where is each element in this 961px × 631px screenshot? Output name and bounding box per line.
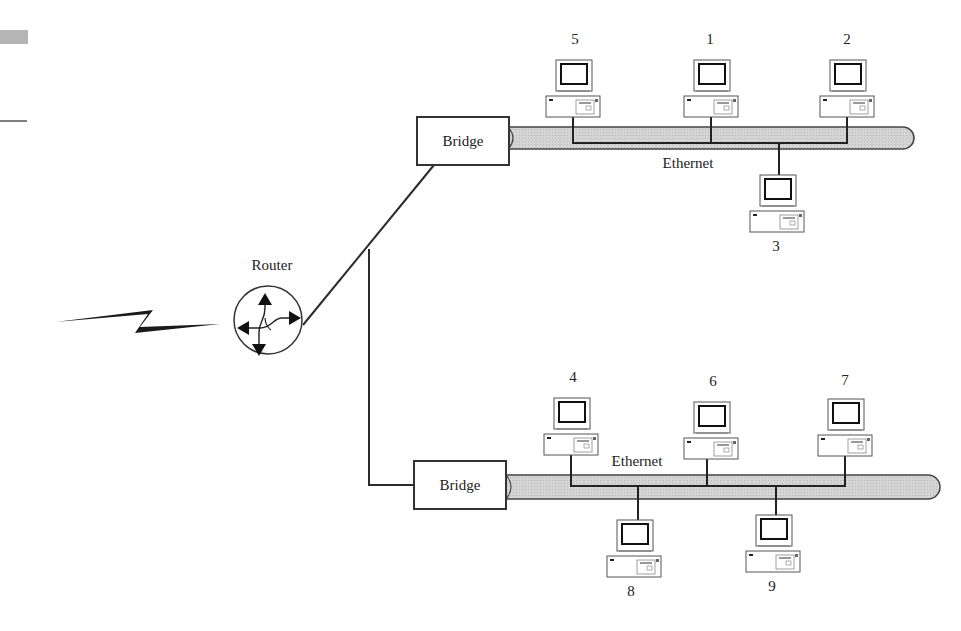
bridge-bottom-label: Bridge bbox=[440, 477, 481, 494]
router-label: Router bbox=[252, 257, 293, 274]
computer-1-icon bbox=[684, 60, 738, 117]
ethernet-top-label: Ethernet bbox=[663, 155, 714, 172]
computer-5-label: 5 bbox=[571, 31, 579, 48]
computer-2-label: 2 bbox=[843, 31, 851, 48]
computer-5-icon bbox=[546, 60, 600, 117]
bridge-top-label: Bridge bbox=[443, 133, 484, 150]
computer-4-icon bbox=[544, 398, 598, 455]
router-icon bbox=[234, 286, 302, 356]
computer-3-label: 3 bbox=[772, 238, 780, 255]
network-diagram bbox=[0, 0, 961, 631]
computer-1-label: 1 bbox=[706, 31, 714, 48]
computer-8-icon bbox=[607, 520, 661, 577]
computer-6-label: 6 bbox=[709, 373, 717, 390]
router-bridge-links bbox=[303, 165, 434, 485]
computer-8-label: 8 bbox=[627, 583, 635, 600]
computer-4-label: 4 bbox=[569, 369, 577, 386]
computer-7-label: 7 bbox=[841, 372, 849, 389]
computer-9-icon bbox=[746, 515, 800, 572]
computer-9-label: 9 bbox=[768, 578, 776, 595]
ethernet-bottom-label: Ethernet bbox=[612, 453, 663, 470]
computer-2-icon bbox=[820, 60, 874, 117]
computer-6-icon bbox=[684, 402, 738, 459]
computer-3-icon bbox=[750, 175, 804, 232]
bridge-bottom: Bridge bbox=[413, 460, 507, 510]
wan-lightning-icon bbox=[55, 310, 220, 333]
bridge-top: Bridge bbox=[416, 116, 510, 166]
margin-mark bbox=[0, 30, 28, 44]
computer-7-icon bbox=[818, 399, 872, 456]
